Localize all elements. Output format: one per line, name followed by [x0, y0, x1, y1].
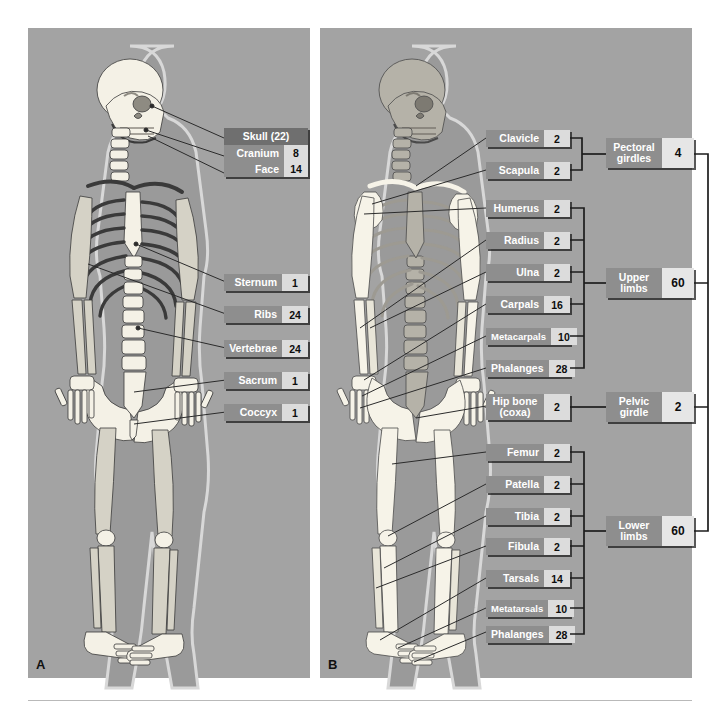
vertebrae-count: 24	[282, 340, 308, 357]
face-label: Face	[224, 161, 284, 177]
ribs-label: Ribs	[224, 306, 282, 323]
panel-a-letter: A	[36, 657, 45, 672]
coccyx-count: 1	[282, 404, 308, 421]
coccyx-label: Coccyx	[224, 404, 282, 421]
sacrum-label: Sacrum	[224, 372, 282, 389]
ribs-count: 24	[282, 306, 308, 323]
sternum-count: 1	[282, 274, 308, 291]
label-ribs: Ribs 24	[224, 306, 308, 323]
label-face: Face 14	[224, 161, 308, 177]
bracket-connectors	[320, 28, 692, 678]
sternum-label: Sternum	[224, 274, 282, 291]
panel-b-appendicular-skeleton: Clavicle 2 Scapula 2 Humerus 2 Radius 2 …	[320, 28, 692, 678]
panel-a-axial-skeleton: Skull (22) Cranium 8 Face 14 Sternum 1 R…	[28, 28, 310, 678]
cranium-count: 8	[284, 145, 308, 161]
label-sternum: Sternum 1	[224, 274, 308, 291]
sacrum-count: 1	[282, 372, 308, 389]
panel-b-letter: B	[328, 657, 337, 672]
label-skull-group: Skull (22) Cranium 8 Face 14	[224, 128, 308, 177]
face-count: 14	[284, 161, 308, 177]
label-cranium: Cranium 8	[224, 145, 308, 161]
skull-group-header: Skull (22)	[224, 128, 308, 145]
label-sacrum: Sacrum 1	[224, 372, 308, 389]
vertebrae-label: Vertebrae	[224, 340, 282, 357]
bottom-divider	[28, 700, 692, 701]
cranium-label: Cranium	[224, 145, 284, 161]
label-coccyx: Coccyx 1	[224, 404, 308, 421]
label-vertebrae: Vertebrae 24	[224, 340, 308, 357]
